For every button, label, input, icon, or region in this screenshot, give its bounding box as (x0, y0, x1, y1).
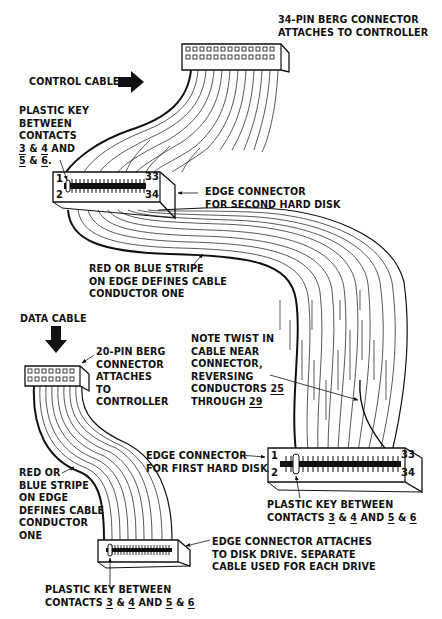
label-line: NOTE TWIST IN (191, 333, 284, 346)
34-pin-berg-label: 34-PIN BERG CONNECTOR ATTACHES TO CONTRO… (278, 14, 428, 39)
contact-number: 3 (19, 143, 26, 154)
contact-number: 4 (41, 143, 48, 154)
data-cable-arrow-icon (45, 326, 67, 353)
conductor-number: 25 (270, 383, 284, 394)
label-line: 3 & 4 AND (19, 143, 89, 156)
label-line: CONTACTS (19, 130, 89, 143)
drive-connector-label: EDGE CONNECTOR ATTACHES TO DISK DRIVE. S… (212, 536, 376, 574)
first-pin-1-label: 1 (271, 450, 278, 461)
label-line: BETWEEN (19, 118, 89, 131)
data-cable-heading: DATA CABLE (20, 313, 87, 326)
pin-1-label: 1 (56, 173, 63, 184)
contact-number: 3 (328, 512, 335, 523)
label-line: PLASTIC KEY BETWEEN (267, 499, 417, 512)
label-line: CONNECTOR, (191, 358, 284, 371)
label-line: CABLE USED FOR EACH DRIVE (212, 561, 376, 574)
label-text: & (26, 155, 41, 166)
first-disk-connector-label: EDGE CONNECTOR FOR FIRST HARD DISK (146, 450, 268, 475)
label-line: CONTACTS 3 & 4 AND 5 & 6 (45, 597, 195, 610)
contact-number: 5 (166, 597, 173, 608)
label-text: AND (48, 143, 75, 154)
control-cable-heading: CONTROL CABLE (29, 76, 120, 89)
label-line: BLUE STRIPE (19, 480, 104, 493)
pin-33-label: 33 (145, 171, 159, 182)
first-key-label: PLASTIC KEY BETWEEN CONTACTS 3 & 4 AND 5… (267, 499, 417, 524)
label-line: ON EDGE DEFINES CABLE (89, 276, 227, 289)
label-text: & (335, 512, 350, 523)
label-text: & (173, 597, 188, 608)
label-line: EDGE CONNECTOR ATTACHES (212, 536, 376, 549)
label-line: FOR FIRST HARD DISK (146, 463, 268, 476)
label-line: REVERSING (191, 371, 284, 384)
label-text: & (113, 597, 128, 608)
control-cable-arrow-icon (118, 71, 144, 93)
label-text: CONDUCTORS (191, 383, 270, 394)
label-line: 5 & 6. (19, 155, 89, 168)
label-line: ON EDGE (19, 492, 104, 505)
label-text: CONTACTS (45, 597, 106, 608)
data-berg-leader-line (82, 355, 94, 363)
label-line: EDGE CONNECTOR (205, 186, 340, 199)
second-disk-connector-label: EDGE CONNECTOR FOR SECOND HARD DISK (205, 186, 340, 211)
contact-number: 6 (188, 597, 195, 608)
data-stripe-note-label: RED OR BLUE STRIPE ON EDGE DEFINES CABLE… (19, 467, 104, 543)
stripe-note-label: RED OR BLUE STRIPE ON EDGE DEFINES CABLE… (89, 263, 227, 301)
contact-number: 5 (388, 512, 395, 523)
first-disk-edge-connector (268, 448, 422, 492)
label-line: PLASTIC KEY (19, 105, 89, 118)
control-ribbon-lower (68, 207, 407, 452)
first-pin-33-label: 33 (401, 449, 415, 460)
plastic-key-label: PLASTIC KEY BETWEEN CONTACTS 3 & 4 AND 5… (19, 105, 89, 168)
label-line: THROUGH 29 (191, 396, 284, 409)
label-line: 20-PIN BERG (96, 346, 168, 359)
contact-number: 6 (410, 512, 417, 523)
first-pin-2-label: 2 (271, 467, 278, 478)
conductor-number: 29 (249, 396, 263, 407)
label-text: THROUGH (191, 396, 249, 407)
label-text: AND (357, 512, 388, 523)
contact-number: 5 (19, 155, 26, 166)
label-text: & (395, 512, 410, 523)
contact-number: 3 (106, 597, 113, 608)
label-line: CABLE NEAR (191, 346, 284, 359)
first-pin-34-label: 34 (401, 467, 415, 478)
label-line: ATTACHES TO CONTROLLER (278, 27, 428, 40)
pin-34-label: 34 (145, 189, 159, 200)
label-line: 34-PIN BERG CONNECTOR (278, 14, 428, 27)
label-line: CONTACTS 3 & 4 AND 5 & 6 (267, 512, 417, 525)
label-line: CONTROLLER (96, 396, 168, 409)
label-line: CONDUCTORS 25 (191, 383, 284, 396)
label-line: FOR SECOND HARD DISK (205, 199, 340, 212)
label-text: CONTACTS (267, 512, 328, 523)
drive-connector-leader-line (186, 540, 210, 546)
label-line: DEFINES CABLE (19, 505, 104, 518)
label-text: & (26, 143, 41, 154)
contact-number: 6 (41, 155, 48, 166)
twist-note-label: NOTE TWIST IN CABLE NEAR CONNECTOR, REVE… (191, 333, 284, 409)
pin-2-label: 2 (56, 189, 63, 200)
label-line: CONDUCTOR (19, 517, 104, 530)
label-line: ONE (19, 530, 104, 543)
label-text: . (48, 155, 52, 166)
label-text: AND (135, 597, 166, 608)
label-line: RED OR (19, 467, 104, 480)
20-pin-berg-label: 20-PIN BERG CONNECTOR ATTACHES TO CONTRO… (96, 346, 168, 409)
label-line: EDGE CONNECTOR (146, 450, 268, 463)
label-line: ATTACHES (96, 371, 168, 384)
drive-edge-connector (98, 540, 190, 568)
label-line: RED OR BLUE STRIPE (89, 263, 227, 276)
label-line: TO (96, 384, 168, 397)
data-key-label: PLASTIC KEY BETWEEN CONTACTS 3 & 4 AND 5… (45, 584, 195, 609)
label-line: CONDUCTOR ONE (89, 288, 227, 301)
label-line: CONNECTOR (96, 359, 168, 372)
label-line: TO DISK DRIVE. SEPARATE (212, 549, 376, 562)
34-pin-berg-connector (182, 44, 289, 72)
label-line: PLASTIC KEY BETWEEN (45, 584, 195, 597)
